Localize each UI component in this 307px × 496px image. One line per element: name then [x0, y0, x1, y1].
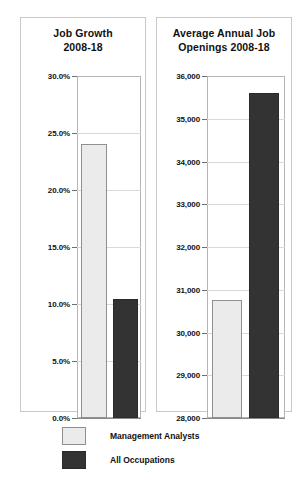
ytick-label-30000: 30,000	[176, 328, 200, 337]
ytick-label-29000: 29,000	[176, 371, 200, 380]
chart-title-job-growth: Job Growth 2008-18	[21, 26, 145, 54]
legend-label-all-occupations: All Occupations	[110, 455, 175, 465]
ytick-label-10: 10.0%	[48, 300, 70, 309]
legend-swatch-dark	[62, 451, 86, 469]
gridline-0-baseline: 0.0%	[77, 418, 141, 419]
gridline-25: 25.0%	[77, 133, 141, 134]
bar-all-occupations-openings	[249, 93, 279, 418]
tick-mark	[202, 76, 207, 77]
legend-item-management-analysts: Management Analysts	[62, 424, 282, 448]
legend-swatch-light	[62, 427, 86, 445]
ytick-label-5: 5.0%	[52, 356, 70, 365]
tick-mark	[202, 204, 207, 205]
tick-mark	[202, 162, 207, 163]
chart-panel-job-growth: Job Growth 2008-18 30.0% 25.0% 20.0% 15.…	[20, 17, 146, 412]
ytick-label-33000: 33,000	[176, 200, 200, 209]
tick-mark	[72, 76, 77, 77]
ytick-label-35000: 35,000	[176, 114, 200, 123]
tick-mark	[72, 304, 77, 305]
legend-item-all-occupations: All Occupations	[62, 448, 282, 472]
gridline-36000: 36,000	[207, 76, 285, 77]
figure-two-bar-charts: Job Growth 2008-18 30.0% 25.0% 20.0% 15.…	[0, 0, 307, 496]
tick-mark	[202, 333, 207, 334]
ytick-label-25: 25.0%	[48, 129, 70, 138]
tick-mark	[202, 418, 207, 419]
gridline-30: 30.0%	[77, 76, 141, 77]
tick-mark	[202, 119, 207, 120]
ytick-label-20: 20.0%	[48, 185, 70, 194]
ytick-label-34000: 34,000	[176, 157, 200, 166]
chart-title-job-openings: Average Annual Job Openings 2008-18	[157, 26, 291, 54]
tick-mark	[72, 133, 77, 134]
plot-area-job-growth: 30.0% 25.0% 20.0% 15.0% 10.0% 5.0%	[77, 76, 141, 418]
tick-mark	[72, 418, 77, 419]
plot-area-job-openings: 36,000 35,000 34,000 33,000 32,000 31,00…	[207, 76, 285, 418]
ytick-label-36000: 36,000	[176, 72, 200, 81]
tick-mark	[202, 247, 207, 248]
bar-management-analysts-openings	[212, 300, 242, 418]
ytick-label-30: 30.0%	[48, 72, 70, 81]
tick-mark	[202, 290, 207, 291]
legend-label-management-analysts: Management Analysts	[110, 431, 199, 441]
ytick-label-31000: 31,000	[176, 285, 200, 294]
ytick-label-15: 15.0%	[48, 243, 70, 252]
tick-mark	[202, 375, 207, 376]
chart-panel-job-openings: Average Annual Job Openings 2008-18 36,0…	[156, 17, 292, 412]
legend: Management Analysts All Occupations	[62, 424, 282, 472]
ytick-label-0: 0.0%	[52, 414, 70, 423]
tick-mark	[72, 361, 77, 362]
tick-mark	[72, 247, 77, 248]
gridline-28000-baseline: 28,000	[207, 418, 285, 419]
bar-management-analysts-growth	[81, 144, 107, 418]
tick-mark	[72, 190, 77, 191]
ytick-label-28000: 28,000	[176, 414, 200, 423]
bar-all-occupations-growth	[113, 299, 138, 418]
ytick-label-32000: 32,000	[176, 243, 200, 252]
